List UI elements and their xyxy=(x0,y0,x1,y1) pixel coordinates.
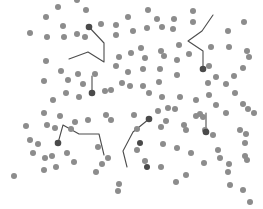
particle-dot xyxy=(200,114,206,120)
particle-dot xyxy=(128,50,134,56)
particle-dot xyxy=(30,150,36,156)
particle-dot xyxy=(92,71,98,77)
particle-dot xyxy=(245,106,251,112)
particle-dot xyxy=(57,113,63,119)
particle-diagram xyxy=(0,0,263,209)
particle-dot xyxy=(186,51,192,57)
particle-dot xyxy=(159,24,165,30)
tracked-particle-head xyxy=(55,140,62,147)
tracked-particle-head xyxy=(86,24,93,31)
particle-dot xyxy=(49,153,55,159)
particle-dot xyxy=(145,7,151,13)
particle-dot xyxy=(44,34,50,40)
particle-dot xyxy=(161,53,167,59)
particle-dot xyxy=(108,117,114,123)
particle-dot xyxy=(176,42,182,48)
particle-dot xyxy=(43,14,49,20)
particle-dot xyxy=(41,110,47,116)
particle-dot xyxy=(65,77,71,83)
particle-dot xyxy=(76,94,82,100)
particle-dot xyxy=(177,94,183,100)
particle-dot-dark xyxy=(144,164,150,170)
particle-dot xyxy=(159,94,165,100)
particle-dot xyxy=(173,179,179,185)
particle-dot xyxy=(190,8,196,14)
particle-dot xyxy=(99,161,105,167)
particle-dot xyxy=(251,110,257,116)
particle-dot xyxy=(246,54,252,60)
particle-dot xyxy=(63,90,69,96)
particle-dot xyxy=(155,108,161,114)
particle-dot xyxy=(201,160,207,166)
particle-dot xyxy=(93,169,99,175)
particle-dot xyxy=(223,81,229,87)
particle-dot xyxy=(193,113,199,119)
particle-dot xyxy=(165,105,171,111)
tracked-particle-head xyxy=(89,90,96,97)
particle-dot xyxy=(27,137,33,143)
particle-dot xyxy=(158,124,164,130)
tracked-particle-head xyxy=(203,129,210,136)
particle-dot xyxy=(53,164,59,170)
particle-dot xyxy=(131,112,137,118)
particle-dot xyxy=(154,16,160,22)
particle-dot xyxy=(215,147,221,153)
particle-dot xyxy=(138,45,144,51)
particle-dot xyxy=(85,117,91,123)
particle-dot xyxy=(134,126,140,132)
particle-dot xyxy=(144,25,150,31)
particle-dot xyxy=(58,68,64,74)
particle-dot xyxy=(41,167,47,173)
particle-dot xyxy=(225,169,231,175)
particle-dot xyxy=(163,118,169,124)
particle-dot xyxy=(223,110,229,116)
particle-dot xyxy=(170,26,176,32)
particle-dot xyxy=(105,155,111,161)
particle-dot xyxy=(74,31,80,37)
particle-dot xyxy=(156,79,162,85)
particle-dot xyxy=(125,14,131,20)
particle-dot xyxy=(119,80,125,86)
tracked-particle-head xyxy=(146,116,153,123)
particle-dot xyxy=(226,44,232,50)
particle-dot xyxy=(125,69,131,75)
particle-dot xyxy=(134,147,140,153)
particle-dot xyxy=(60,23,66,29)
particle-dot xyxy=(193,97,199,103)
particle-dot xyxy=(217,155,223,161)
particle-dot xyxy=(102,88,108,94)
particle-dot xyxy=(213,102,219,108)
particle-dot xyxy=(130,28,136,34)
particle-dot xyxy=(113,22,119,28)
particle-dot-dark xyxy=(137,140,143,146)
particle-dot xyxy=(116,54,122,60)
particle-dot xyxy=(244,48,250,54)
particle-dot xyxy=(174,72,180,78)
particle-dot xyxy=(206,92,212,98)
particle-dot xyxy=(225,28,231,34)
particle-dot xyxy=(241,19,247,25)
particle-dot xyxy=(232,90,238,96)
particle-dot xyxy=(68,126,74,132)
particle-dot xyxy=(237,127,243,133)
particle-dot xyxy=(142,55,148,61)
particle-dot xyxy=(127,83,133,89)
particle-dot xyxy=(72,119,78,125)
particle-dot xyxy=(82,34,88,40)
particle-dot xyxy=(210,132,216,138)
particle-dot xyxy=(247,199,253,205)
particle-dot xyxy=(158,48,164,54)
particle-dot xyxy=(174,145,180,151)
particle-dot xyxy=(231,73,237,79)
particle-dot xyxy=(242,140,248,146)
particle-dot xyxy=(142,158,148,164)
particle-dot xyxy=(227,182,233,188)
particle-dot xyxy=(44,122,50,128)
particle-dot xyxy=(244,157,250,163)
particle-dot xyxy=(11,173,17,179)
particle-dot xyxy=(83,7,89,13)
particle-dot xyxy=(108,87,114,93)
particle-dot xyxy=(115,188,121,194)
particle-dot xyxy=(206,63,212,69)
particle-dot xyxy=(243,131,249,137)
